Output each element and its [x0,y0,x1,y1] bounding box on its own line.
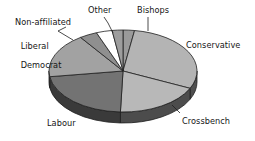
slice-label-liberal-democrat-line2: Democrat [21,60,62,70]
slice-label-labour: Labour [47,119,76,128]
slice-label-liberal-democrat-line1: Liberal [21,41,49,51]
slice-label-non-affiliated: Non-affiliated [15,18,71,27]
pie-chart: Conservative Crossbench Labour Liberal D… [0,0,255,141]
slice-label-crossbench: Crossbench [182,117,230,126]
pie-top-slices [49,30,197,112]
slice-label-conservative: Conservative [186,41,240,50]
slice-label-liberal-democrat: Liberal Democrat [10,33,61,80]
slice-label-bishops: Bishops [137,6,169,15]
slice-label-other: Other [88,6,112,15]
